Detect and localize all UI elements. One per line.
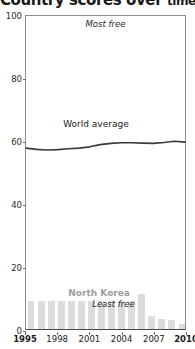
chart-title-tail: time bbox=[167, 0, 195, 8]
chart-figure: Country scores over time Most free World… bbox=[0, 0, 195, 349]
line-series-world-average bbox=[26, 16, 185, 329]
y-axis-tick-label: 40 bbox=[11, 200, 22, 210]
x-axis-tick-label: 2001 bbox=[79, 334, 101, 344]
y-axis-tick-label: 80 bbox=[11, 74, 22, 84]
series-label-world-average: World average bbox=[63, 119, 129, 129]
annotation-least-free: Least free bbox=[92, 299, 135, 309]
series-label-north-korea: North Korea bbox=[68, 288, 130, 298]
x-axis-tick-mark bbox=[57, 332, 58, 335]
chart-title-main: Country scores over bbox=[0, 0, 162, 9]
plot-area: Most free World average North Korea Leas… bbox=[25, 15, 186, 330]
x-axis-ticks: 199519982001200420072010 bbox=[25, 332, 186, 348]
x-axis-tick-label: 2004 bbox=[111, 334, 133, 344]
y-axis-tick-label: 20 bbox=[11, 263, 22, 273]
y-axis-tick-mark bbox=[23, 142, 26, 143]
x-axis-tick-label: 2010 bbox=[174, 334, 195, 344]
y-axis-tick-mark bbox=[23, 79, 26, 80]
x-axis-tick-mark bbox=[154, 332, 155, 335]
world-average-line bbox=[26, 141, 185, 150]
x-axis-tick-mark bbox=[89, 332, 90, 335]
x-axis-tick-label: 1998 bbox=[46, 334, 68, 344]
x-axis-tick-label: 1995 bbox=[13, 334, 37, 344]
annotation-most-free: Most free bbox=[86, 19, 126, 29]
chart-title: Country scores over time bbox=[0, 0, 195, 9]
x-axis-tick-mark bbox=[122, 332, 123, 335]
y-axis-tick-label: 100 bbox=[6, 11, 22, 21]
y-axis-tick-mark bbox=[23, 205, 26, 206]
y-axis-tick-label: 60 bbox=[11, 137, 22, 147]
y-axis-tick-mark bbox=[23, 268, 26, 269]
x-axis-tick-mark bbox=[25, 332, 26, 335]
x-axis-tick-label: 2007 bbox=[143, 334, 165, 344]
x-axis-tick-mark bbox=[186, 332, 187, 335]
